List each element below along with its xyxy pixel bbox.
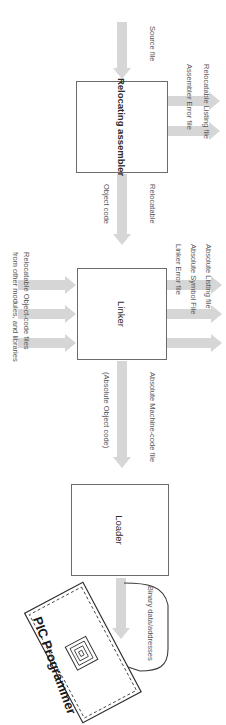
- arrow-relocatable-object-code: [113, 174, 131, 246]
- box-relocating-assembler-label: Relocating assembler: [117, 78, 128, 176]
- label-absolute-object-code: (Absolute Object code): [102, 372, 110, 448]
- label-source-file: Source file: [148, 26, 156, 61]
- label-linker-inputs-line1: Relocatable Object-code files: [21, 252, 30, 350]
- box-loader-label: Loader: [115, 515, 126, 545]
- label-linker-error-file: Linker Error file: [174, 244, 182, 295]
- page-caption-strip: [0, 700, 226, 722]
- arrow-linker-error-file: [164, 334, 222, 352]
- box-linker[interactable]: Linker: [77, 268, 167, 360]
- label-linker-inputs-line2: from other modules, and libraries: [10, 252, 19, 362]
- label-relocatable: Relocatable: [148, 184, 156, 224]
- box-loader[interactable]: Loader: [71, 484, 169, 576]
- label-absolute-machine-code-file: Absolute Machine-code file: [148, 372, 156, 462]
- label-absolute-listing-file: Absolute Listing file: [204, 244, 212, 309]
- label-assembler-error-file: Assembler Error file: [185, 64, 193, 130]
- label-binary-data-addresses: Binary data/addresses: [146, 586, 154, 661]
- box-relocating-assembler[interactable]: Relocating assembler: [76, 81, 168, 173]
- label-absolute-symbol-file: Absolute Symbol File: [189, 244, 197, 314]
- label-relocatable-listing-file: Relocatable Listing file: [202, 64, 210, 139]
- label-object-code: Object code: [102, 184, 110, 224]
- arrow-source-file: [113, 22, 131, 80]
- box-linker-label: Linker: [117, 301, 128, 327]
- arrow-absolute-machine-code: [113, 361, 131, 469]
